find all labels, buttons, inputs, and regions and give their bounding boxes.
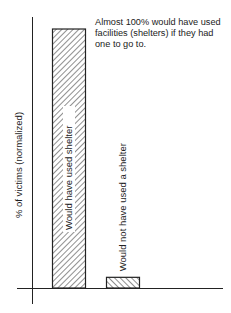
- bar-label-1: Would have used shelter: [63, 126, 74, 230]
- y-axis-label: % of victims (normalized): [13, 112, 24, 218]
- bar-2: [107, 277, 140, 288]
- annotation-text: Almost 100% would have used facilities (…: [95, 17, 231, 50]
- bar-label-2: Would not have used a shelter: [117, 143, 128, 271]
